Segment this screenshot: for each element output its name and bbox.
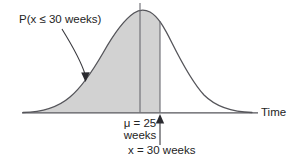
normal-distribution-figure: P(x ≤ 30 weeks) Time μ = 25 weeks x = 30… bbox=[0, 0, 301, 164]
axis-label-time: Time bbox=[261, 106, 286, 118]
mean-label-line1: μ = 25 bbox=[124, 117, 157, 129]
mean-label-line2: weeks bbox=[113, 129, 167, 141]
x-value-label: x = 30 weeks bbox=[128, 144, 195, 156]
mean-label: μ = 25 weeks bbox=[113, 117, 167, 142]
probability-leader-line bbox=[62, 29, 85, 74]
probability-label: P(x ≤ 30 weeks) bbox=[19, 13, 101, 25]
